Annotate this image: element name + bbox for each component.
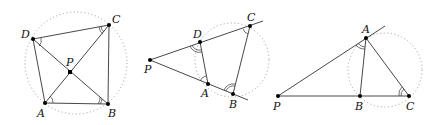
point-A: [206, 82, 210, 86]
label-C: C: [406, 100, 415, 113]
angle-mark-B-double-2: [98, 97, 100, 104]
point-C: [248, 24, 252, 28]
angle-mark-A-double-1: [358, 43, 365, 47]
label-P: P: [65, 56, 74, 69]
label-A: A: [361, 23, 370, 36]
label-A: A: [200, 87, 209, 100]
circumcircle-1: [25, 12, 127, 114]
chord-CB: [233, 26, 250, 94]
chord-DA: [200, 42, 208, 84]
point-A: [364, 36, 368, 40]
label-B: B: [107, 107, 116, 120]
point-B: [358, 94, 362, 98]
angle-mark-A-single: [200, 76, 206, 81]
angle-mark-D-double-1: [192, 45, 201, 50]
figure-two-secants: P D C A B: [143, 11, 269, 111]
point-B: [231, 92, 235, 96]
point-B: [106, 102, 110, 106]
label-C: C: [112, 13, 121, 26]
point-D: [31, 37, 35, 41]
angle-mark-C-single: [243, 29, 248, 34]
angle-mark-B-double-1: [100, 99, 102, 104]
point-P: [276, 94, 280, 98]
figure-tangent-secant: P A B C: [272, 23, 422, 113]
tangent-PA: [278, 26, 385, 96]
label-A: A: [36, 107, 45, 120]
figure-cyclic-quadrilateral: A B C D P: [20, 12, 127, 120]
label-C: C: [247, 11, 256, 24]
chord-AC: [366, 38, 409, 96]
diagonal-AC: [45, 25, 109, 103]
point-A: [43, 101, 47, 105]
label-D: D: [20, 28, 30, 41]
label-B: B: [354, 100, 363, 113]
geometry-diagram: A B C D P P D C A B: [0, 0, 442, 125]
point-P: [148, 58, 152, 62]
label-D: D: [192, 28, 202, 41]
label-P: P: [143, 63, 152, 76]
label-B: B: [228, 98, 237, 111]
point-C: [107, 23, 111, 27]
point-C: [407, 94, 411, 98]
angle-mark-C-double-1: [401, 89, 404, 96]
label-P: P: [272, 100, 281, 113]
point-P: [68, 70, 72, 74]
